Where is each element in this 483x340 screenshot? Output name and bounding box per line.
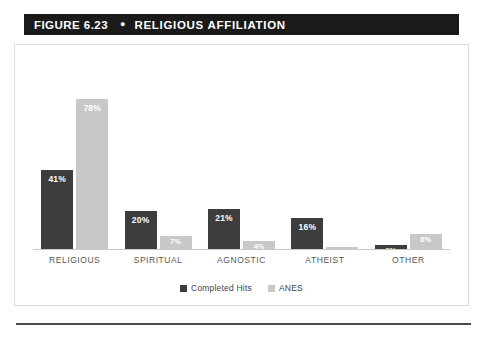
bar-value-label: 21% (215, 213, 233, 223)
bar-value-label: 8% (420, 235, 431, 244)
bar-group: 20%7% (116, 57, 199, 249)
bar-value-label: 16% (299, 222, 317, 232)
bullet-dot-icon: ● (120, 20, 125, 29)
figure-bottom-rule (16, 323, 471, 325)
bar-group: 21%4% (200, 57, 283, 249)
bar[interactable]: 16% (291, 218, 323, 249)
figure-title: RELIGIOUS AFFILIATION (134, 19, 285, 31)
x-axis-tick-labels: RELIGIOUSSPIRITUALAGNOSTICATHEISTOTHER (33, 255, 450, 273)
legend-swatch-icon (268, 285, 275, 292)
legend-label: Completed Hits (191, 283, 252, 293)
figure-header-bar: FIGURE 6.23 ● RELIGIOUS AFFILIATION (24, 14, 459, 35)
chart-legend: Completed HitsANES (15, 283, 468, 293)
bar[interactable]: 7% (160, 236, 192, 249)
bar-group: 16%1% (283, 57, 366, 249)
legend-entry[interactable]: Completed Hits (180, 283, 252, 293)
chart-container: 41%78%20%7%21%4%16%1%2%8% RELIGIOUSSPIRI… (14, 44, 469, 306)
x-axis-tick-label: SPIRITUAL (116, 255, 199, 265)
bar[interactable]: 78% (76, 99, 108, 249)
bar[interactable]: 4% (243, 241, 275, 249)
legend-entry[interactable]: ANES (268, 283, 303, 293)
legend-label: ANES (279, 283, 303, 293)
x-axis-tick-label: RELIGIOUS (33, 255, 116, 265)
legend-swatch-icon (180, 285, 187, 292)
bar-value-label: 78% (83, 103, 101, 113)
bar[interactable]: 41% (41, 170, 73, 249)
x-axis-tick-label: ATHEIST (283, 255, 366, 265)
bar[interactable]: 21% (208, 209, 240, 249)
bar-value-label: 20% (132, 215, 150, 225)
bar-group: 41%78% (33, 57, 116, 249)
bars-layer: 41%78%20%7%21%4%16%1%2%8% (33, 57, 450, 249)
bar-group: 2%8% (367, 57, 450, 249)
bar[interactable]: 20% (125, 211, 157, 249)
x-axis-tick-label: OTHER (367, 255, 450, 265)
x-axis-tick-label: AGNOSTIC (200, 255, 283, 265)
plot-area: 41%78%20%7%21%4%16%1%2%8% RELIGIOUSSPIRI… (33, 57, 450, 279)
figure-number: FIGURE 6.23 (34, 19, 108, 31)
bar-value-label: 7% (170, 237, 181, 246)
bar-value-label: 2% (385, 246, 396, 255)
bar-value-label: 41% (48, 174, 66, 184)
bar[interactable]: 8% (410, 234, 442, 249)
x-axis-line (33, 249, 450, 250)
